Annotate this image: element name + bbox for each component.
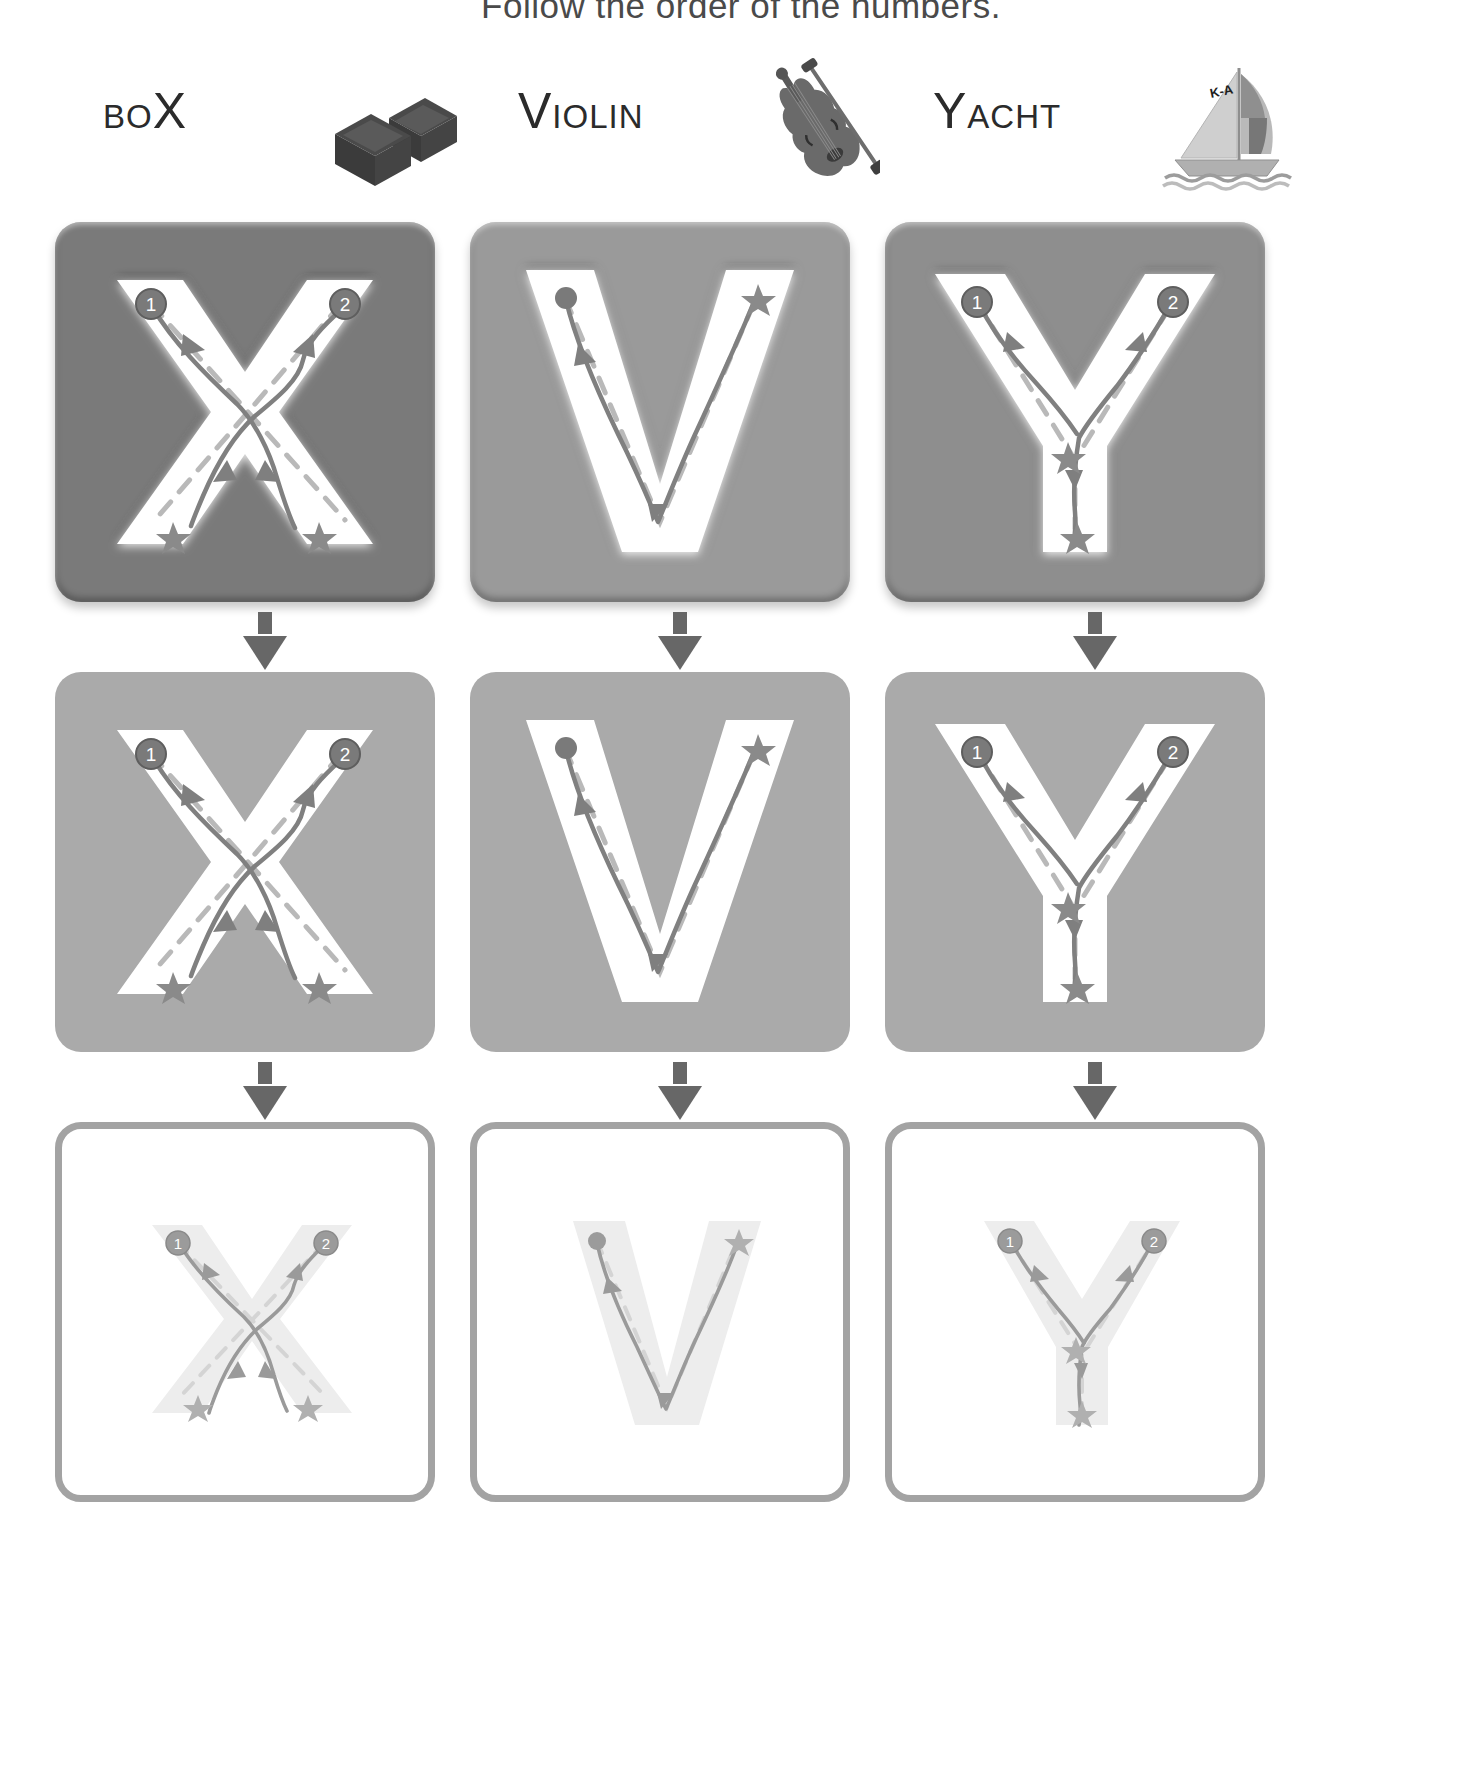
letter-stage-v-3: [477, 1129, 857, 1509]
svg-text:2: 2: [1168, 292, 1179, 313]
word-accent-yacht: ACHT: [967, 98, 1061, 135]
arrow-shaft: [1088, 612, 1102, 634]
letter-stage-y-3: 1 2: [892, 1129, 1272, 1509]
word-label-box: BOX: [103, 82, 187, 140]
letter-stage-v-2: [470, 672, 850, 1052]
arrow-head: [243, 1086, 287, 1120]
word-row-box: BOX: [55, 58, 475, 208]
tracing-card-v-step1[interactable]: [470, 222, 850, 602]
svg-text:1: 1: [1006, 1233, 1014, 1250]
svg-text:2: 2: [1150, 1233, 1158, 1250]
svg-text:2: 2: [322, 1235, 330, 1252]
down-arrow-y-1: [1067, 612, 1123, 670]
svg-text:2: 2: [1168, 742, 1179, 763]
arrow-head: [658, 1086, 702, 1120]
tracing-card-x-step1[interactable]: 1 2: [55, 222, 435, 602]
arrow-shaft: [673, 612, 687, 634]
arrow-shaft: [673, 1062, 687, 1084]
svg-text:1: 1: [146, 294, 157, 315]
word-accent-box: X: [153, 83, 187, 139]
word-label-yacht: YACHT: [933, 82, 1061, 140]
letter-stage-v-1: [470, 222, 850, 602]
stroke-badge-2: 2: [330, 289, 360, 319]
letter-stage-x-1: 1 2: [55, 222, 435, 602]
word-accent-violin: IOLIN: [552, 98, 643, 135]
tracing-card-y-step3[interactable]: 1 2: [885, 1122, 1265, 1502]
arrow-shaft: [258, 612, 272, 634]
word-row-violin: VIOLIN: [470, 58, 890, 208]
svg-text:1: 1: [174, 1235, 182, 1252]
letter-stage-y-1: 1 2: [885, 222, 1265, 602]
svg-text:1: 1: [972, 742, 983, 763]
letter-stage-y-2: 1 2: [885, 672, 1265, 1052]
word-lead-violin: V: [518, 83, 552, 139]
tracing-card-x-step2[interactable]: 1 2: [55, 672, 435, 1052]
tracing-card-y-step2[interactable]: 1 2: [885, 672, 1265, 1052]
arrow-head: [1073, 1086, 1117, 1120]
stroke-start-dot: [555, 287, 577, 309]
svg-text:1: 1: [146, 744, 157, 765]
tracing-card-y-step1[interactable]: 1 2: [885, 222, 1265, 602]
arrow-shaft: [1088, 1062, 1102, 1084]
stroke-badge-1: 1: [136, 289, 166, 319]
word-row-yacht: YACHT K-A: [885, 58, 1305, 208]
down-arrow-x-2: [237, 1062, 293, 1120]
worksheet-page: Follow the order of the numbers. BOX: [0, 0, 1482, 1768]
word-label-violin: VIOLIN: [518, 82, 644, 140]
stroke-badge-2: 2: [1158, 287, 1188, 317]
page-title: Follow the order of the numbers.: [0, 0, 1482, 26]
arrow-head: [243, 636, 287, 670]
down-arrow-y-2: [1067, 1062, 1123, 1120]
down-arrow-x-1: [237, 612, 293, 670]
word-lead-box: BO: [103, 98, 153, 135]
arrow-head: [1073, 636, 1117, 670]
arrow-head: [658, 636, 702, 670]
stroke-badge-1: 1: [962, 287, 992, 317]
letter-stage-x-3: 1 2: [62, 1129, 442, 1509]
tracing-card-x-step3[interactable]: 1 2: [55, 1122, 435, 1502]
letter-stage-x-2: 1 2: [55, 672, 435, 1052]
svg-text:2: 2: [340, 744, 351, 765]
svg-text:2: 2: [340, 294, 351, 315]
box-illustration: [325, 58, 465, 198]
arrow-shaft: [258, 1062, 272, 1084]
violin-illustration: [740, 58, 880, 198]
word-lead-yacht: Y: [933, 83, 967, 139]
svg-text:1: 1: [972, 292, 983, 313]
down-arrow-v-2: [652, 1062, 708, 1120]
tracing-card-v-step3[interactable]: [470, 1122, 850, 1502]
yacht-illustration: K-A: [1155, 58, 1295, 198]
tracing-card-v-step2[interactable]: [470, 672, 850, 1052]
down-arrow-v-1: [652, 612, 708, 670]
